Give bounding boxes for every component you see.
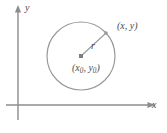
figure-caption bbox=[4, 124, 124, 131]
y-axis-label: y bbox=[25, 3, 29, 13]
circle-geometry-figure: y x r (x, y) (x0, y0) bbox=[0, 0, 167, 133]
x-axis-label: x bbox=[152, 100, 156, 110]
point-on-circle-label: (x, y) bbox=[117, 21, 138, 31]
center-point-marker bbox=[79, 54, 83, 58]
center-coordinates-label: (x0, y0) bbox=[72, 63, 100, 75]
center-label-open: (x bbox=[72, 62, 80, 73]
circle-point-marker bbox=[104, 31, 108, 35]
center-label-middle: , y bbox=[83, 62, 92, 73]
radius-label: r bbox=[91, 41, 95, 51]
y-axis-arrowhead-icon bbox=[15, 5, 21, 13]
center-label-close: ) bbox=[96, 62, 99, 73]
